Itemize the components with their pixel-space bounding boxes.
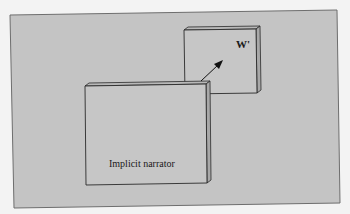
diagram-canvas: W' Implicit narrator bbox=[0, 0, 350, 214]
implicit-narrator-label: Implicit narrator bbox=[109, 158, 175, 169]
implicit-narrator-box-front-face bbox=[85, 84, 207, 185]
w-prime-label: W' bbox=[236, 38, 250, 50]
implicit-narrator-box: Implicit narrator bbox=[85, 81, 211, 185]
